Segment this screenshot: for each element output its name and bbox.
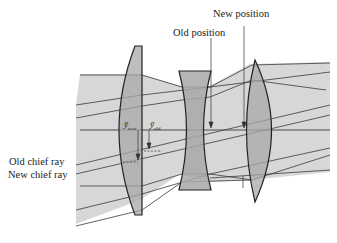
label-new-position: New position — [213, 9, 269, 20]
label-y-bar-new: ȳnew — [124, 120, 136, 131]
label-old-chief-ray: Old chief ray — [9, 157, 64, 168]
label-y-bar-old: ȳold — [150, 120, 160, 131]
optical-diagram — [0, 0, 337, 243]
label-old-position: Old position — [173, 28, 225, 39]
label-new-chief-ray: New chief ray — [8, 170, 67, 181]
